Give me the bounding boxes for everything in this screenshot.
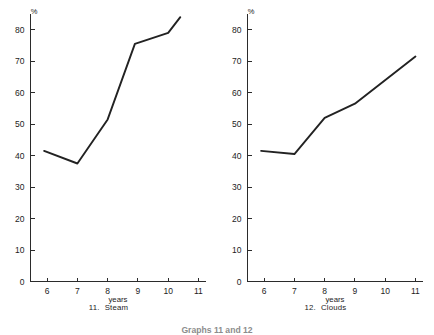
x-tick-marks-steam [47, 278, 198, 282]
y-tick-label: 20 [232, 214, 242, 224]
panel-caption-name-steam: Steam [105, 303, 129, 312]
y-tick-label: 30 [232, 182, 242, 192]
data-series-steam [44, 17, 180, 163]
figure-graphs-11-and-12: 01020304050607080 67891011 % years 11.St… [0, 0, 434, 335]
y-tick-label: 70 [15, 56, 25, 66]
y-tick-label: 0 [20, 277, 25, 287]
panel-caption-clouds: 12.Clouds [217, 303, 434, 312]
x-tick-label: 7 [292, 286, 297, 296]
y-tick-label: 10 [232, 245, 242, 255]
y-tick-labels-clouds: 01020304050607080 [232, 25, 242, 287]
y-axis-unit-label-clouds: % [248, 7, 255, 16]
figure-caption: Graphs 11 and 12 [0, 324, 434, 335]
y-tick-label: 0 [237, 277, 242, 287]
line-chart-clouds: 01020304050607080 67891011 % years [217, 0, 434, 322]
x-tick-label: 6 [262, 286, 267, 296]
chart-panel-steam: 01020304050607080 67891011 % years 11.St… [0, 0, 217, 322]
x-tick-marks-clouds [264, 278, 415, 282]
x-tick-labels-clouds: 67891011 [262, 286, 420, 296]
chart-panel-clouds: 01020304050607080 67891011 % years 12.Cl… [217, 0, 434, 322]
y-tick-label: 30 [15, 182, 25, 192]
panel-caption-steam: 11.Steam [0, 303, 217, 312]
y-tick-label: 80 [232, 25, 242, 35]
line-chart-steam: 01020304050607080 67891011 % years [0, 0, 217, 322]
x-tick-label: 9 [353, 286, 358, 296]
y-tick-label: 10 [15, 245, 25, 255]
x-tick-label: 10 [163, 286, 173, 296]
y-tick-label: 60 [15, 88, 25, 98]
x-tick-label: 11 [194, 286, 203, 296]
y-tick-label: 50 [15, 119, 25, 129]
x-tick-labels-steam: 67891011 [45, 286, 203, 296]
x-tick-label: 9 [136, 286, 141, 296]
x-tick-label: 8 [322, 286, 327, 296]
data-series-clouds [261, 56, 415, 154]
y-tick-label: 40 [232, 151, 242, 161]
y-tick-marks-clouds [248, 30, 252, 250]
x-tick-label: 6 [45, 286, 50, 296]
y-tick-labels-steam: 01020304050607080 [15, 25, 25, 287]
x-tick-label: 11 [411, 286, 420, 296]
panel-caption-number-steam: 11. [89, 303, 100, 312]
panel-caption-number-clouds: 12. [305, 303, 316, 312]
y-tick-marks-steam [31, 30, 35, 250]
chart-panels: 01020304050607080 67891011 % years 11.St… [0, 0, 434, 322]
x-tick-label: 10 [380, 286, 390, 296]
panel-caption-name-clouds: Clouds [321, 303, 346, 312]
y-axis-unit-label-steam: % [31, 7, 38, 16]
y-tick-label: 60 [232, 88, 242, 98]
y-tick-label: 80 [15, 25, 25, 35]
x-tick-label: 8 [105, 286, 110, 296]
y-tick-label: 40 [15, 151, 25, 161]
y-tick-label: 70 [232, 56, 242, 66]
y-tick-label: 20 [15, 214, 25, 224]
x-tick-label: 7 [75, 286, 80, 296]
y-tick-label: 50 [232, 119, 242, 129]
